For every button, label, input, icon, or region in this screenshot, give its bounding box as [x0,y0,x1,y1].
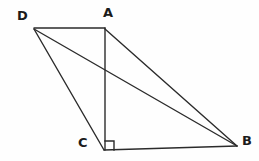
vertex-label-c: C [78,136,88,149]
vertex-label-b: B [242,134,252,147]
segment-DC [34,29,104,150]
vertex-label-d: D [17,9,28,22]
segment-AB [105,29,237,146]
geometry-canvas [0,0,259,161]
geometry-figure: D A C B [0,0,259,161]
segment-DB [34,29,237,146]
right-angle-marker-icon [105,141,114,150]
vertex-label-a: A [103,6,113,19]
segment-CB [104,146,237,150]
